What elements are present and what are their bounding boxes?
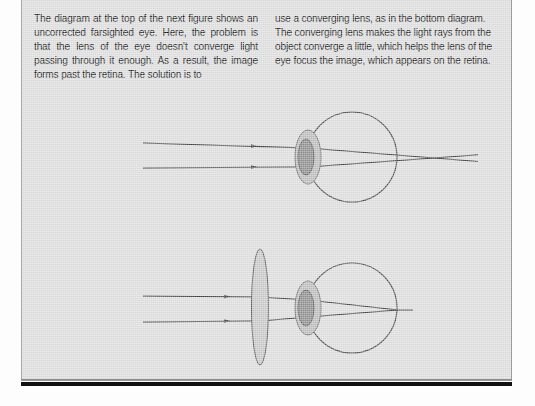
figure-page: The diagram at the top of the next figur… bbox=[0, 0, 535, 406]
refracted-ray-top-2 bbox=[308, 158, 434, 167]
refracted-ray-bottom-2 bbox=[308, 310, 398, 317]
incoming-ray-top-2 bbox=[143, 167, 308, 168]
eye-diagrams-svg bbox=[22, 0, 513, 381]
diverging-ray-top-2 bbox=[434, 155, 478, 158]
incoming-ray-top-1 bbox=[143, 143, 308, 148]
figure-panel: The diagram at the top of the next figur… bbox=[21, 0, 512, 381]
ray-arrowhead-bottom-1 bbox=[224, 295, 231, 299]
ray-arrowhead-bottom-2 bbox=[224, 319, 231, 323]
refracted-ray-top-1 bbox=[308, 148, 434, 158]
diverging-ray-top-1 bbox=[434, 158, 478, 162]
diagram-corrected-farsighted-eye bbox=[143, 249, 413, 365]
ray-arrowhead-top-2 bbox=[251, 165, 258, 169]
ray-arrowhead-top-1 bbox=[251, 144, 258, 148]
incoming-ray-bottom-2 bbox=[143, 321, 260, 322]
section-divider-rule bbox=[21, 381, 512, 386]
incoming-ray-bottom-1 bbox=[143, 296, 260, 297]
eye-lens-bottom bbox=[298, 290, 314, 326]
refracted-ray-bottom-1 bbox=[308, 300, 398, 310]
panel-bottom-hairline bbox=[21, 379, 512, 380]
diagram-uncorrected-farsighted-eye bbox=[143, 112, 478, 202]
corrective-converging-lens bbox=[252, 249, 269, 365]
eye-lens-top bbox=[298, 139, 314, 175]
